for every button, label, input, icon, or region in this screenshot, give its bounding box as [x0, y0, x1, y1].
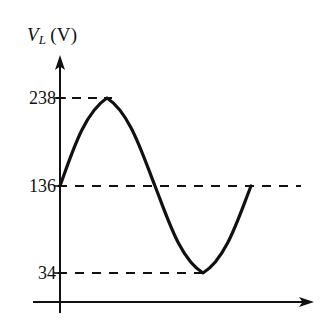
- y-axis-label-unit: (V): [50, 24, 77, 45]
- y-axis-label: VL(V): [27, 25, 77, 46]
- y-tick-label-238: 238: [0, 89, 56, 107]
- figure-root: VL(V) 238 136 34: [0, 0, 330, 331]
- y-tick-label-136: 136: [0, 177, 56, 195]
- waveform-curve: [60, 98, 251, 273]
- y-axis-label-subscript: L: [39, 32, 46, 47]
- y-tick-label-34: 34: [0, 264, 56, 282]
- y-axis-label-symbol: V: [27, 24, 39, 45]
